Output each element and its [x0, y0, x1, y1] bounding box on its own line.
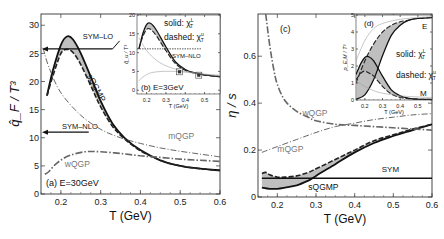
- panel-label: (b) E=3GeV: [141, 83, 184, 92]
- y-axis-title: q̂_u / T³: [123, 45, 129, 64]
- y-tick-label: 0: [251, 192, 256, 202]
- y-tick-label: 20: [29, 77, 39, 87]
- x-axis-title: T (GeV): [384, 109, 404, 115]
- y-tick-label: 4: [351, 29, 354, 35]
- e-label: E: [422, 22, 427, 31]
- x-tick-label: 0.2: [143, 97, 151, 103]
- x-axis-title: T (GeV): [109, 209, 151, 223]
- y-tick-label: 10: [129, 50, 135, 56]
- x-tick-label: 0.3: [379, 103, 387, 109]
- y-tick-label: 0.6: [243, 51, 256, 61]
- y-tick-label: 10: [29, 133, 39, 143]
- y-tick-label: 5: [132, 68, 135, 74]
- mqgp-label: mQGP: [277, 144, 303, 154]
- legend-entry: dashed: χuT: [164, 31, 204, 43]
- sym-nlo-label: SYM–NLO: [62, 122, 98, 131]
- figure: SYM–LOSYM–NLO0.20.30.40.50.6051015202530…: [0, 0, 444, 239]
- y-tick-label: 15: [29, 105, 39, 115]
- y-tick-label: 3: [351, 46, 354, 52]
- mqgp-label: mQGP: [168, 131, 194, 141]
- x-tick-label: 0.2: [271, 200, 284, 210]
- x-tick-label: 0.2: [361, 103, 369, 109]
- x-tick-label: 0.5: [387, 200, 400, 210]
- y-tick-label: 5: [34, 161, 39, 171]
- x-tick-label: 0.4: [396, 103, 404, 109]
- legend-entry: dashed: χuT: [396, 69, 436, 81]
- panel-d-inset-chart: 0.20.30.40.5012345T (GeV)ρ_E,M / T³(d)so…: [342, 12, 436, 115]
- x-tick-label: 0.3: [310, 200, 323, 210]
- sym-label: SYM: [382, 165, 400, 174]
- y-tick-label: 5: [351, 12, 354, 18]
- sqgmp-label: sQGMP: [308, 182, 339, 192]
- x-tick-label: 0.5: [201, 97, 209, 103]
- y-tick-label: 0.2: [243, 145, 256, 155]
- panel-label: (a) E=30GeV: [46, 178, 99, 188]
- y-tick-label: 0: [132, 87, 135, 93]
- x-tick-label: 0.3: [94, 197, 107, 207]
- legend-entry: solid: χLT: [396, 48, 426, 60]
- m-label: M: [420, 89, 427, 98]
- x-tick-label: 0.4: [181, 97, 189, 103]
- wqgp-label: wQGP: [301, 108, 327, 118]
- x-tick-label: 0.4: [134, 197, 147, 207]
- legend-entry: solid: χLT: [164, 17, 194, 29]
- panel-label: (c): [280, 24, 291, 34]
- data-point: [197, 74, 200, 77]
- y-tick-label: 0: [351, 97, 354, 103]
- x-tick-label: 0.5: [414, 103, 422, 109]
- y-axis-title: η / s: [224, 93, 239, 118]
- y-tick-label: 0.4: [243, 98, 256, 108]
- x-tick-label: 0.4: [348, 200, 361, 210]
- y-axis-title: ρ_E,M / T³: [342, 44, 348, 71]
- x-tick-label: 0.3: [162, 97, 170, 103]
- y-tick-label: 1: [351, 80, 354, 86]
- sym-lo-label: SYM–LO: [83, 32, 114, 41]
- y-tick-label: 20: [129, 12, 135, 18]
- y-tick-label: 2: [351, 63, 354, 69]
- data-point: [178, 70, 181, 73]
- x-axis-title: T (GeV): [324, 212, 366, 226]
- x-tick-label: 0.2: [55, 197, 68, 207]
- wqgp-label: wQGP: [64, 159, 90, 169]
- y-tick-label: 0: [34, 189, 39, 199]
- x-tick-label: 0.5: [174, 197, 187, 207]
- panel-label: (d): [364, 19, 374, 28]
- x-axis-title: T (GeV): [169, 103, 189, 109]
- x-tick-label: 0.6: [214, 197, 227, 207]
- x-tick-label: 0.6: [426, 200, 439, 210]
- y-tick-label: 25: [29, 49, 39, 59]
- y-axis-title: q̂_F / T³: [7, 81, 22, 127]
- y-tick-label: 30: [29, 20, 39, 30]
- sym-nlo-label: SYM–NLO: [172, 53, 201, 59]
- y-tick-label: 15: [129, 31, 135, 37]
